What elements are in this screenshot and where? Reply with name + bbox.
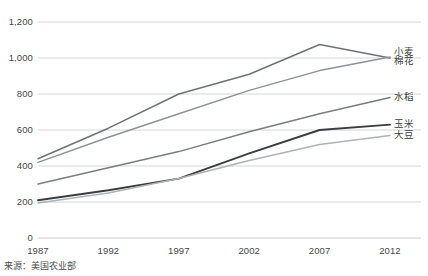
y-axis-tick-label: 0 — [0, 232, 33, 243]
series-label-4: 大豆 — [394, 130, 414, 141]
y-axis-tick-label: 1,200 — [0, 16, 33, 27]
series-label-1: 棉花 — [394, 56, 414, 67]
x-axis-tick-label: 1997 — [153, 245, 205, 256]
series-line-2 — [38, 98, 390, 184]
x-axis-tick-label: 2002 — [223, 245, 275, 256]
y-axis-tick-label: 400 — [0, 160, 33, 171]
chart-container: 02004006008001,0001,200 1987199219972002… — [0, 0, 428, 276]
line-chart-plot — [0, 0, 428, 276]
y-axis-tick-label: 1,000 — [0, 52, 33, 63]
x-axis-tick-label: 1987 — [12, 245, 64, 256]
series-label-3: 玉米 — [394, 119, 414, 130]
gridlines-group — [38, 22, 421, 238]
x-axis-tick-label: 2012 — [364, 245, 416, 256]
y-axis-tick-label: 600 — [0, 124, 33, 135]
source-note: 来源：美国农业部 — [4, 259, 76, 272]
x-axis-tick-label: 2007 — [294, 245, 346, 256]
y-axis-tick-label: 200 — [0, 196, 33, 207]
series-label-2: 水稻 — [394, 92, 414, 103]
y-axis-tick-label: 800 — [0, 88, 33, 99]
x-axis-tick-label: 1992 — [82, 245, 134, 256]
series-lines-group — [38, 45, 390, 203]
